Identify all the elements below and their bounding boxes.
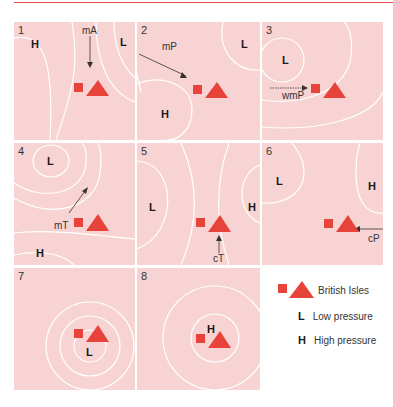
british-isles-icon — [278, 280, 314, 300]
british-isles-triangle — [86, 214, 109, 231]
panel-2: 2 L H mP — [137, 22, 260, 140]
panel-number: 1 — [18, 24, 24, 36]
british-isles-triangle — [205, 82, 228, 98]
low-pressure-label: L — [282, 54, 289, 66]
air-mass-label: mT — [54, 220, 68, 231]
legend-high-pressure-label: High pressure — [314, 335, 376, 346]
legend-high-pressure: H High pressure — [298, 334, 376, 346]
high-pressure-label: H — [161, 108, 169, 120]
low-pressure-label: L — [149, 201, 156, 213]
air-mass-label: wmP — [282, 90, 304, 101]
air-mass-arrow — [139, 54, 186, 76]
panel-number: 4 — [18, 145, 24, 157]
panel-number: 8 — [141, 270, 147, 282]
low-pressure-label: L — [47, 155, 54, 167]
legend-low-pressure: L Low pressure — [298, 310, 373, 322]
panel-number: 5 — [141, 145, 147, 157]
low-pressure-label: L — [241, 38, 248, 50]
legend-british-isles: British Isles — [278, 280, 369, 300]
isobars — [262, 22, 383, 140]
british-isles-square — [324, 219, 333, 228]
legend: British Isles L Low pressure H High pres… — [262, 268, 393, 388]
panel-3: 3 L wmP — [262, 22, 383, 140]
high-pressure-label: H — [31, 38, 39, 50]
low-pressure-label: L — [120, 36, 127, 48]
air-mass-label: cT — [213, 253, 224, 264]
british-isles-square — [193, 85, 202, 94]
air-mass-label: mP — [162, 41, 177, 52]
high-pressure-label: H — [368, 180, 376, 192]
panel-number: 3 — [266, 24, 272, 36]
british-isles-triangle — [86, 325, 109, 342]
high-pressure-key: H — [298, 334, 306, 346]
british-isles-square — [74, 329, 83, 338]
british-isles-triangle — [336, 215, 359, 232]
air-mass-label: mA — [82, 25, 97, 36]
legend-british-isles-label: British Isles — [318, 285, 369, 296]
british-isles-square — [311, 84, 320, 93]
panel-number: 7 — [18, 270, 24, 282]
british-isles-square — [196, 218, 205, 227]
panel-number: 6 — [266, 145, 272, 157]
british-isles-triangle — [86, 80, 109, 96]
top-accent-rule — [14, 2, 393, 3]
high-pressure-label: H — [248, 201, 256, 213]
air-mass-label: cP — [368, 233, 380, 244]
high-pressure-label: H — [36, 247, 44, 259]
british-isles-square — [74, 218, 83, 227]
low-pressure-label: L — [276, 175, 283, 187]
panel-1: 1 H L mA — [14, 22, 135, 140]
british-isles-square — [196, 334, 205, 343]
isobars — [137, 268, 260, 390]
isobars — [14, 143, 135, 265]
low-pressure-key: L — [298, 310, 305, 322]
isobars — [262, 143, 383, 265]
panel-7: 7 L — [14, 268, 135, 390]
high-pressure-label: H — [207, 323, 215, 335]
isobars — [14, 268, 135, 390]
panel-5: 5 L H cT — [137, 143, 260, 265]
panel-4: 4 L H mT — [14, 143, 135, 265]
british-isles-square — [74, 83, 83, 92]
british-isles-triangle — [208, 215, 231, 232]
panel-6: 6 L H cP — [262, 143, 383, 265]
panel-8: 8 H — [137, 268, 260, 390]
legend-low-pressure-label: Low pressure — [313, 311, 373, 322]
panel-number: 2 — [141, 24, 147, 36]
low-pressure-label: L — [86, 346, 93, 358]
